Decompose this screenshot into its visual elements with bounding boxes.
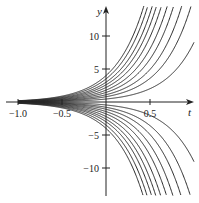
solution-curve (18, 7, 173, 102)
x-tick-label: −1.0 (9, 108, 27, 119)
solution-curve (18, 103, 143, 195)
solution-curve (18, 6, 152, 101)
solution-curve (18, 103, 151, 195)
solution-curve (18, 102, 190, 194)
x-tick-label: 0.5 (144, 108, 157, 119)
y-axis-label: y (96, 5, 102, 17)
y-tick-label: −10 (83, 163, 99, 174)
y-tick-label: −5 (88, 130, 99, 141)
solution-curves-plot: yt−1.0−0.50.5105−5−10 (0, 0, 199, 203)
solution-curve (18, 7, 191, 102)
x-tick-label: −0.5 (53, 108, 71, 119)
solution-curve (18, 6, 144, 101)
y-tick-label: 5 (94, 64, 99, 75)
y-tick-label: 10 (89, 31, 99, 42)
t-axis-label: t (188, 106, 192, 118)
